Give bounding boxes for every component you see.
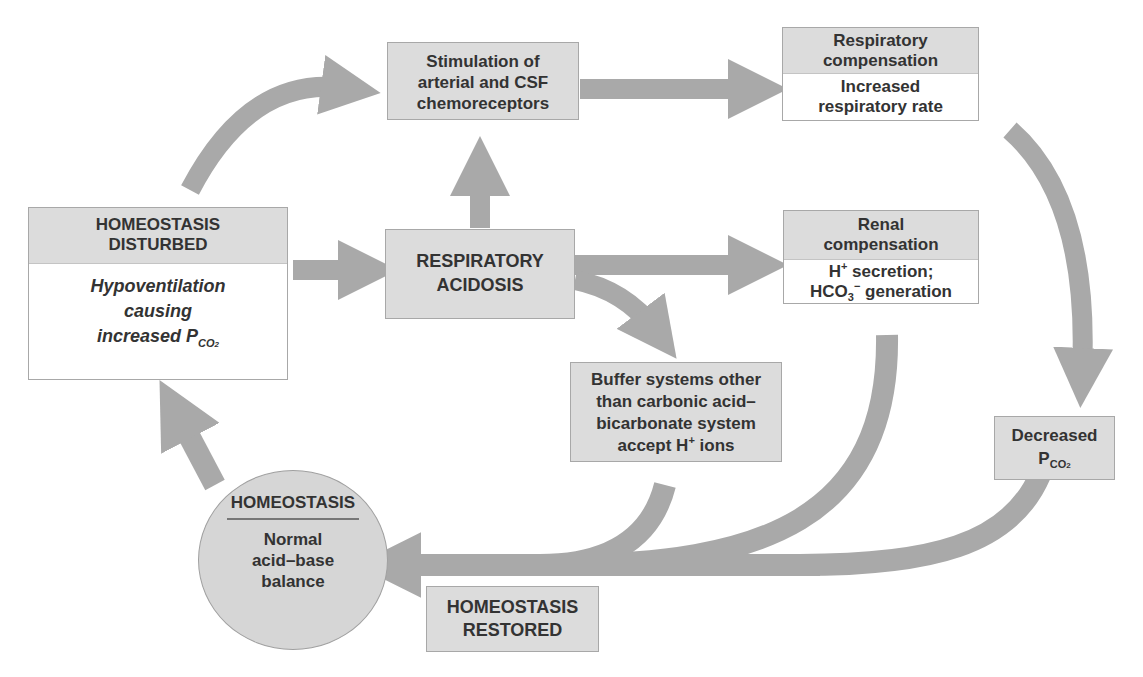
node-stimulation: Stimulation of arterial and CSF chemorec… [387, 42, 579, 120]
node-header: HOMEOSTASIS DISTURBED [29, 208, 287, 263]
node-renal-compensation: Renal compensation H+ secretion; HCO3− g… [783, 210, 979, 304]
node-homeostasis-restored: HOMEOSTASIS RESTORED [426, 586, 599, 652]
node-body: H+ secretion; HCO3− generation [784, 259, 978, 303]
node-body: Increased respiratory rate [783, 73, 978, 120]
arrow-disturbed-to-stimulation [190, 87, 345, 190]
arrow-resp-comp-to-decreased [1010, 130, 1083, 372]
arrow-homeostasis-to-disturbed [178, 415, 215, 485]
node-body: Hypoventilation causing increased PCO2 [29, 263, 287, 379]
arrow-acidosis-to-buffer [575, 280, 655, 330]
node-homeostasis: HOMEOSTASIS Normal acid–base balance [198, 470, 388, 650]
node-header: Respiratory compensation [783, 28, 978, 73]
node-header: Renal compensation [784, 211, 978, 259]
divider [227, 518, 359, 520]
node-homeostasis-disturbed: HOMEOSTASIS DISTURBED Hypoventilation ca… [28, 207, 288, 380]
node-buffer-systems: Buffer systems other than carbonic acid–… [570, 362, 782, 462]
node-decreased-pco2: Decreased PCO2 [994, 416, 1115, 480]
node-respiratory-acidosis: RESPIRATORY ACIDOSIS [385, 229, 575, 319]
node-respiratory-compensation: Respiratory compensation Increased respi… [782, 27, 979, 121]
